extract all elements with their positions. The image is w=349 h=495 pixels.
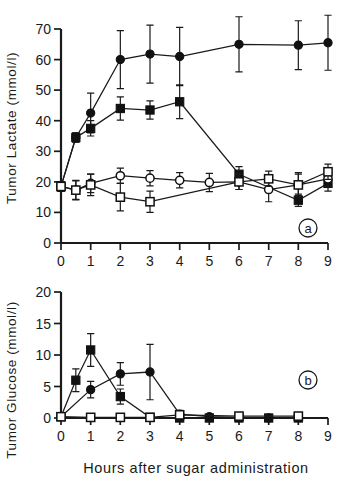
data-point-marker [72,133,80,141]
data-point-marker [176,52,184,60]
panel-b-xtick-7: 7 [265,428,273,444]
x-axis-title: Hours after sugar administration [83,460,309,476]
data-point-marker [235,178,243,186]
data-point-marker [116,55,124,63]
series-open-square [57,164,332,212]
panel-b-ytick-5: 5 [43,379,51,395]
panel-a-ytick-30: 30 [35,143,51,159]
panel-b-ytick-20: 20 [35,284,51,300]
panel-a-series-group [57,15,332,212]
data-point-marker [146,368,154,376]
panel-a-xtick-9: 9 [324,253,332,269]
data-point-marker [87,386,95,394]
panel-b-xtick-0: 0 [57,428,65,444]
data-point-marker [87,109,95,117]
data-point-marker [116,172,124,180]
data-point-marker [324,39,332,47]
data-point-marker [87,181,95,189]
data-point-marker [146,413,154,421]
panel-a-xtick-0: 0 [57,253,65,269]
panel-a: Tumor Lactate (mmol/l) 0 10 20 30 40 [4,15,332,269]
data-point-marker [146,174,154,182]
panel-a-xtick-5: 5 [205,253,213,269]
data-point-marker [294,41,302,49]
panel-b-xtick-9: 9 [324,428,332,444]
series-line [61,43,328,187]
panel-a-ytick-50: 50 [35,82,51,98]
data-point-marker [265,414,273,422]
data-point-marker [176,411,184,419]
data-point-marker [265,175,273,183]
panel-b-xtick-1: 1 [87,428,95,444]
data-point-marker [176,176,184,184]
series-filled-square [57,334,303,423]
panel-a-ytick-10: 10 [35,204,51,220]
panel-b-xtick-8: 8 [294,428,302,444]
data-point-marker [146,106,154,114]
panel-a-ytick-40: 40 [35,113,51,129]
panel-b-xtick-4: 4 [176,428,184,444]
data-point-marker [294,181,302,189]
panel-a-tag-label: a [304,221,312,236]
data-point-marker [57,182,65,190]
panel-b-ytick-10: 10 [35,347,51,363]
data-point-marker [235,40,243,48]
series-line [61,102,328,200]
panel-a-ytick-0: 0 [43,235,51,251]
data-point-marker [57,413,65,421]
series-filled-circle [57,15,332,191]
panel-a-tag: a [299,219,317,237]
panel-a-xtick-2: 2 [116,253,124,269]
panel-b-y-tick-labels: 0 5 10 15 20 [35,284,51,426]
panel-b-ytick-0: 0 [43,410,51,426]
data-point-marker [324,168,332,176]
data-point-marker [87,346,95,354]
panel-b-y-axis-title: Tumor Glucose (mmol/l) [4,301,19,458]
data-point-marker [87,413,95,421]
panel-b-xtick-2: 2 [116,428,124,444]
panel-a-xtick-6: 6 [235,253,243,269]
panel-a-x-tick-labels: 0 1 2 3 4 5 6 7 8 9 [57,253,332,269]
panel-b-xtick-3: 3 [146,428,154,444]
panel-b-xtick-6: 6 [235,428,243,444]
data-point-marker [116,104,124,112]
panel-b-tag-label: b [304,373,311,388]
panel-b-xtick-5: 5 [205,428,213,444]
panel-b-ytick-15: 15 [35,316,51,332]
panel-a-xtick-1: 1 [87,253,95,269]
data-point-marker [116,370,124,378]
panel-a-y-tick-labels: 0 10 20 30 40 50 60 70 [35,21,51,251]
data-point-marker [205,178,213,186]
data-point-marker [146,198,154,206]
data-point-marker [116,392,124,400]
data-point-marker [294,412,302,420]
panel-a-xtick-8: 8 [294,253,302,269]
data-point-marker [205,413,213,421]
panel-a-xtick-4: 4 [176,253,184,269]
data-point-marker [235,412,243,420]
panel-a-y-axis-title: Tumor Lactate (mmol/l) [4,52,19,204]
data-point-marker [146,50,154,58]
series-line [61,350,298,418]
panel-a-xtick-7: 7 [265,253,273,269]
data-point-marker [87,124,95,132]
data-point-marker [116,413,124,421]
two-panel-line-chart: Tumor Lactate (mmol/l) 0 10 20 30 40 [0,0,349,495]
data-point-marker [72,376,80,384]
figure-container: Tumor Lactate (mmol/l) 0 10 20 30 40 [0,0,349,495]
panel-a-xtick-3: 3 [146,253,154,269]
panel-a-ytick-60: 60 [35,52,51,68]
panel-b-x-tick-labels: 0 1 2 3 4 5 6 7 8 9 [57,428,332,444]
data-point-marker [176,98,184,106]
data-point-marker [116,193,124,201]
panel-a-ytick-20: 20 [35,174,51,190]
panel-b-tag: b [299,371,317,389]
data-point-marker [72,186,80,194]
panel-b-series-group [57,334,303,423]
panel-a-ytick-70: 70 [35,21,51,37]
panel-b: Tumor Glucose (mmol/l) 0 5 10 15 20 [4,284,332,476]
